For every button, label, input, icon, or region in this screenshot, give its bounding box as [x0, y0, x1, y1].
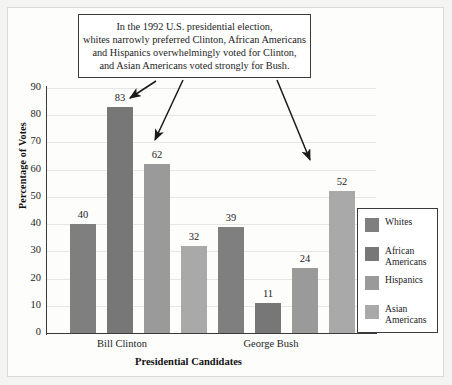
bar-fill [218, 227, 244, 333]
annotation-line-4: and Asian Americans voted strongly for B… [99, 59, 289, 72]
bar-fill [144, 164, 170, 333]
bar-value-label: 11 [263, 288, 273, 299]
bar-value-label: 24 [300, 253, 311, 264]
legend-item-hispanics[interactable]: Hispanics [365, 274, 437, 303]
legend-label: AfricanAmericans [385, 245, 427, 268]
y-axis-tick-label: 20 [11, 272, 41, 283]
legend-swatch [365, 247, 379, 261]
y-axis-tick-label: 40 [11, 217, 41, 228]
annotation-line-3: and Hispanics overwhelmingly voted for C… [92, 46, 296, 59]
y-axis-tick-label: 70 [11, 135, 41, 146]
y-axis-tick-label: 30 [11, 244, 41, 255]
bar-african-americans-george-bush: 11 [255, 303, 281, 333]
legend: WhitesAfricanAmericansHispanicsAsianAmer… [357, 208, 438, 333]
bar-value-label: 39 [226, 212, 237, 223]
y-axis-tick-label: 90 [11, 81, 41, 92]
bar-value-label: 52 [337, 176, 348, 187]
bar-fill [107, 107, 133, 333]
legend-label: Whites [385, 216, 412, 227]
bar-value-label: 32 [189, 231, 200, 242]
plot-area: 4083623239112452 [47, 88, 376, 333]
legend-label: Hispanics [385, 274, 423, 285]
legend-item-asian-americans[interactable]: AsianAmericans [365, 303, 437, 332]
bar-fill [255, 303, 281, 333]
y-axis-tick-label: 60 [11, 163, 41, 174]
x-axis-group-label-clinton: Bill Clinton [62, 338, 182, 349]
legend-item-african-americans[interactable]: AfricanAmericans [365, 245, 437, 274]
x-axis-title: Presidential Candidates [0, 356, 377, 367]
bar-value-label: 62 [152, 149, 163, 160]
annotation-line-2: whites narrowly preferred Clinton, Afric… [83, 33, 306, 46]
legend-item-whites[interactable]: Whites [365, 216, 437, 245]
bar-value-label: 40 [78, 209, 89, 220]
bar-hispanics-george-bush: 24 [292, 268, 318, 333]
bar-fill [329, 191, 355, 333]
bar-whites-george-bush: 39 [218, 227, 244, 333]
legend-swatch [365, 276, 379, 290]
bar-asian-americans-bill-clinton: 32 [181, 246, 207, 333]
legend-swatch [365, 305, 379, 319]
bar-fill [181, 246, 207, 333]
x-axis-line [46, 333, 377, 334]
y-axis-tick-label: 80 [11, 108, 41, 119]
bar-fill [292, 268, 318, 333]
annotation-callout: In the 1992 U.S. presidential election, … [78, 14, 311, 78]
chart-figure: In the 1992 U.S. presidential election, … [0, 0, 452, 385]
bar-hispanics-bill-clinton: 62 [144, 164, 170, 333]
legend-swatch [365, 218, 379, 232]
bar-fill [70, 224, 96, 333]
legend-label: AsianAmericans [385, 303, 427, 326]
bar-whites-bill-clinton: 40 [70, 224, 96, 333]
bar-asian-americans-george-bush: 52 [329, 191, 355, 333]
annotation-line-1: In the 1992 U.S. presidential election, [116, 20, 272, 33]
y-axis-tick-label: 50 [11, 190, 41, 201]
y-axis-tick-label: 0 [11, 326, 41, 337]
bar-african-americans-bill-clinton: 83 [107, 107, 133, 333]
x-axis-group-label-bush: George Bush [211, 338, 331, 349]
bar-value-label: 83 [115, 92, 126, 103]
y-axis-tick-label: 10 [11, 299, 41, 310]
